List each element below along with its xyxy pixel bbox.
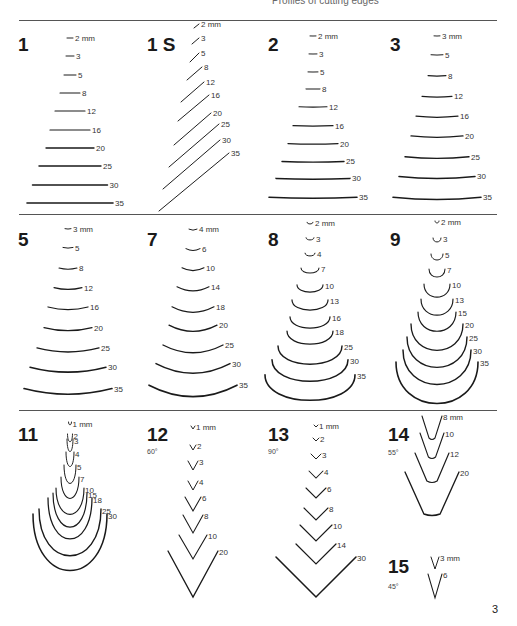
size-label: 18 — [93, 496, 102, 505]
size-label: 2 mm — [75, 34, 95, 43]
cutting-edge-profile — [188, 481, 198, 490]
cutting-edge-profile — [48, 307, 88, 310]
cutting-edge-profile — [191, 426, 195, 429]
cutting-edge-profile — [61, 477, 79, 498]
size-label: 20 — [219, 548, 228, 557]
cutting-edge-profile — [183, 515, 203, 533]
cutting-edge-profile — [282, 161, 344, 162]
size-label: 25 — [346, 157, 355, 166]
size-label: 20 — [465, 132, 474, 141]
size-label: 25 — [471, 153, 480, 162]
size-label: 7 — [80, 475, 85, 484]
cutting-edge-profile — [48, 498, 92, 539]
profile-group-1: 2 mm358121620253035 — [27, 34, 124, 208]
size-label: 10 — [325, 282, 334, 291]
size-label: 4 — [324, 468, 329, 477]
cutting-edge-profile — [428, 574, 442, 598]
size-label: 3 mm — [442, 32, 462, 41]
size-label: 1 mm — [319, 422, 339, 431]
cutting-edge-profile — [44, 328, 92, 331]
cutting-edge-profile — [69, 422, 72, 425]
cutting-edge-profile — [159, 153, 229, 211]
cutting-edge-profile — [433, 238, 441, 242]
size-label: 8 — [448, 72, 453, 81]
size-label: 20 — [213, 109, 222, 118]
size-label: 3 — [322, 451, 327, 460]
size-label: 30 — [222, 136, 231, 145]
size-label: 8 — [322, 85, 327, 94]
size-label: 3 — [76, 52, 81, 61]
size-label: 20 — [219, 321, 228, 330]
size-label: 1 mm — [73, 420, 93, 429]
size-label: 16 — [90, 303, 99, 312]
cutting-edge-profile — [421, 299, 453, 315]
cutting-edge-profile — [431, 254, 443, 260]
cutting-edge-profile — [186, 249, 200, 251]
cutting-edge-profile — [305, 253, 315, 256]
size-label: 12 — [454, 92, 463, 101]
size-label: 16 — [335, 122, 344, 131]
size-label: 5 — [445, 251, 450, 260]
cutting-edge-profile — [182, 268, 204, 271]
cutting-edge-profile — [278, 346, 342, 364]
size-label: 3 mm — [440, 554, 460, 563]
profile-shapes: 2 mm3581216202530352 mm3581216202530352 … — [0, 0, 517, 626]
size-label: 8 — [204, 512, 209, 521]
size-label: 5 — [77, 463, 82, 472]
cutting-edge-profile — [431, 557, 439, 569]
size-label: 7 — [321, 265, 326, 274]
size-label: 5 — [201, 49, 206, 58]
size-label: 1 mm — [196, 423, 216, 432]
size-label: 8 — [204, 63, 209, 72]
cutting-edge-profile — [63, 248, 73, 249]
cutting-edge-profile — [304, 508, 328, 520]
cutting-edge-profile — [405, 157, 469, 159]
size-label: 30 — [110, 181, 119, 190]
cutting-edge-profile — [67, 439, 73, 452]
size-label: 18 — [335, 328, 344, 337]
cutting-edge-profile — [54, 288, 82, 290]
size-label: 16 — [460, 112, 469, 121]
profile-group-13: 1 mm23468101430 — [276, 422, 366, 597]
size-label: 5 — [78, 71, 83, 80]
cutting-edge-profile — [190, 445, 196, 450]
cutting-edge-profile — [66, 452, 74, 467]
size-label: 25 — [469, 334, 478, 343]
cutting-edge-profile — [416, 116, 458, 117]
cutting-edge-profile — [156, 364, 230, 374]
size-label: 35 — [359, 193, 368, 202]
cutting-edge-profile — [300, 525, 332, 541]
profile-group-11: 1 mm234571015182530 — [33, 420, 117, 571]
size-label: 3 — [316, 235, 321, 244]
size-label: 4 mm — [199, 225, 219, 234]
size-label: 6 — [202, 494, 207, 503]
cutting-edge-profile — [30, 367, 106, 372]
size-label: 12 — [84, 284, 93, 293]
cutting-edge-profile — [265, 375, 355, 401]
size-label: 35 — [239, 381, 248, 390]
profile-group-9: 2 mm35710131520253035 — [396, 218, 489, 404]
size-label: 25 — [221, 120, 230, 129]
cutting-edge-profile — [192, 38, 199, 44]
cutting-edge-profile — [178, 95, 209, 121]
cutting-edge-profile — [314, 425, 318, 427]
size-label: 20 — [96, 144, 105, 153]
size-label: 5 — [320, 68, 325, 77]
size-label: 35 — [114, 385, 123, 394]
cutting-edge-profile — [185, 497, 201, 511]
size-label: 3 — [74, 437, 79, 446]
cutting-edge-profile — [393, 197, 481, 199]
size-label: 35 — [115, 199, 124, 208]
size-label: 18 — [216, 303, 225, 312]
profile-group-2: 2 mm358121620253035 — [269, 32, 368, 202]
profile-group-15: 3 mm6 — [428, 554, 460, 598]
profile-group-8: 2 mm34710131618253035 — [265, 219, 366, 400]
size-label: 5 — [75, 244, 80, 253]
size-label: 16 — [211, 91, 220, 100]
size-label: 20 — [460, 469, 469, 478]
cutting-edge-profile — [396, 362, 478, 404]
size-label: 30 — [477, 172, 486, 181]
cutting-edge-profile — [189, 229, 197, 230]
size-label: 25 — [225, 341, 234, 350]
cutting-edge-profile — [33, 514, 107, 571]
